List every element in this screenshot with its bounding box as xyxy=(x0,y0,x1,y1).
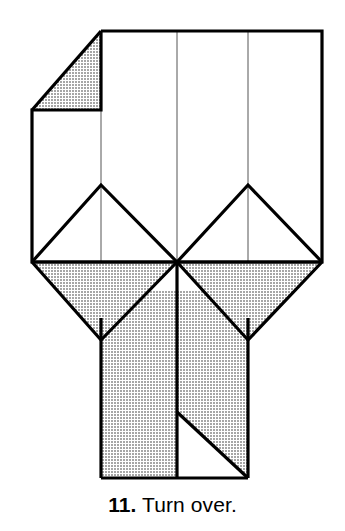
step-number: 11. xyxy=(108,493,136,516)
step-instruction: Turn over. xyxy=(142,493,237,516)
step-caption: 11. Turn over. xyxy=(0,492,345,518)
origami-diagram-figure xyxy=(0,0,345,490)
origami-diagram xyxy=(0,0,345,490)
